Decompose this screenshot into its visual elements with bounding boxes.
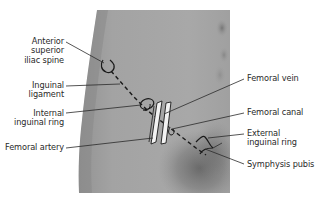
label-femoral-artery: Femoral artery	[5, 143, 64, 152]
inguinal-anatomy-figure: Anterior superior iliac spine Inguinal l…	[0, 0, 317, 203]
label-anterior-superior-iliac-spine: Anterior superior iliac spine	[24, 37, 64, 65]
label-femoral-canal: Femoral canal	[247, 108, 303, 117]
label-femoral-vein: Femoral vein	[247, 74, 299, 83]
inguinal-region-photo	[0, 0, 317, 203]
label-symphysis-pubis: Symphysis pubis	[247, 160, 314, 169]
label-inguinal-ligament: Inguinal ligament	[29, 81, 64, 100]
label-external-inguinal-ring: External inguinal ring	[247, 129, 297, 148]
skin-photo	[70, 0, 242, 203]
label-internal-inguinal-ring: Internal inguinal ring	[14, 109, 64, 128]
